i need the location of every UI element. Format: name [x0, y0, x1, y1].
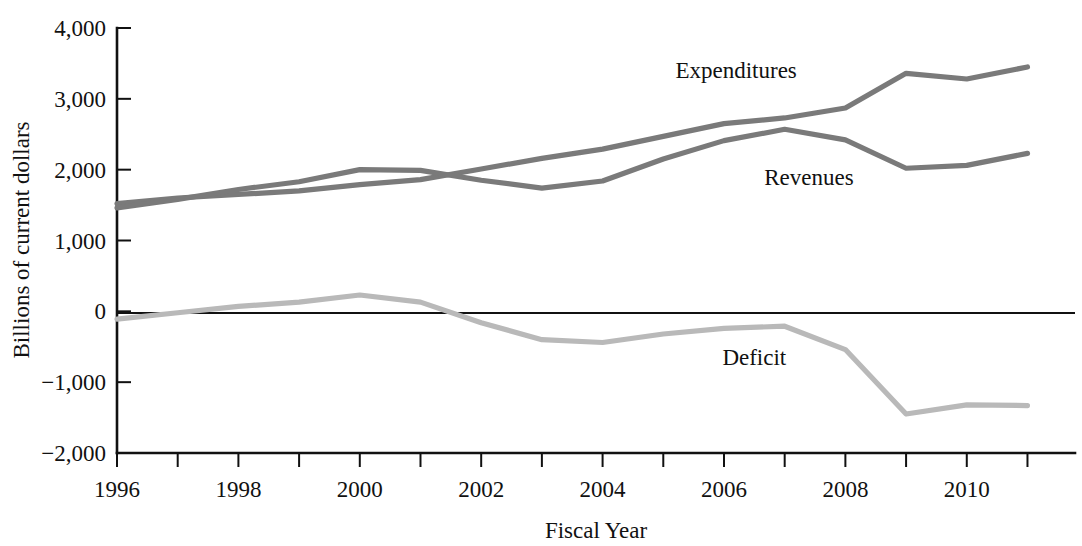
y-tick-label-6: 4,000 [54, 16, 106, 41]
x-tick-label-0: 1996 [94, 477, 140, 502]
y-tick-label-4: 2,000 [54, 158, 106, 183]
y-axis-tick-labels: −2,000−1,00001,0002,0003,0004,000 [41, 16, 106, 466]
x-axis-tick-labels: 19961998200020022004200620082010 [94, 477, 990, 502]
x-axis-ticks [117, 453, 1027, 467]
y-tick-label-2: 0 [95, 299, 107, 324]
series-label-revenues: Revenues [764, 165, 853, 190]
x-tick-label-3: 2002 [458, 477, 504, 502]
y-tick-label-1: −1,000 [41, 370, 106, 395]
x-tick-label-7: 2010 [944, 477, 990, 502]
y-axis-title: Billions of current dollars [9, 121, 34, 358]
y-tick-label-0: −2,000 [41, 441, 106, 466]
series-label-deficit: Deficit [722, 345, 786, 370]
series-label-expenditures: Expenditures [675, 58, 796, 83]
data-series-group [117, 67, 1027, 414]
line-chart-canvas: −2,000−1,00001,0002,0003,0004,000 199619… [0, 0, 1082, 546]
x-tick-label-6: 2008 [822, 477, 868, 502]
chart-figure: −2,000−1,00001,0002,0003,0004,000 199619… [0, 0, 1082, 546]
x-tick-label-2: 2000 [337, 477, 383, 502]
y-tick-label-3: 1,000 [54, 229, 106, 254]
y-axis-ticks [117, 28, 131, 453]
series-annotations: ExpendituresRevenuesDeficit [675, 58, 853, 371]
x-tick-label-1: 1998 [215, 477, 261, 502]
x-tick-label-4: 2004 [580, 477, 627, 502]
x-tick-label-5: 2006 [701, 477, 747, 502]
y-tick-label-5: 3,000 [54, 87, 106, 112]
x-axis-title: Fiscal Year [545, 518, 648, 543]
